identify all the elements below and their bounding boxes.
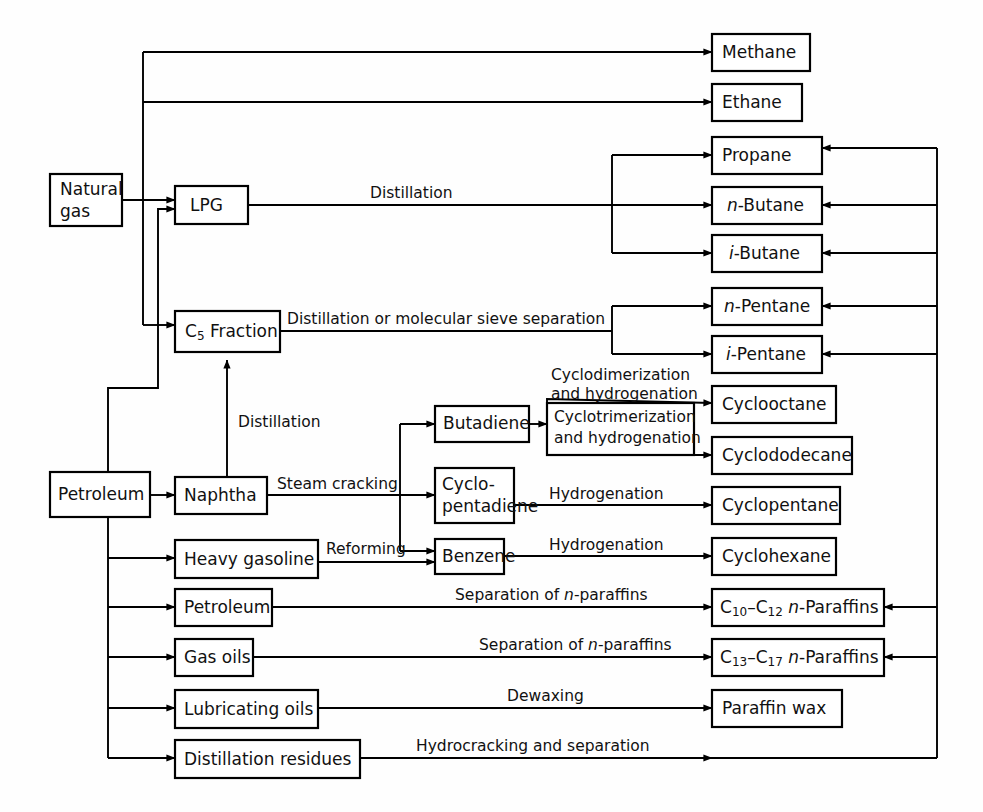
edge-label-distillation-or-molecular-sieve: Distillation or molecular sieve separati… [287, 310, 605, 328]
node-paraffin-wax[interactable]: Paraffin wax [712, 690, 842, 727]
node-butadiene-label: Butadiene [443, 413, 530, 433]
node-natural-gas-label-line2: gas [60, 201, 90, 221]
node-layer: Natural gas LPG C5 Fraction Petroleum [50, 34, 884, 778]
edge-label-cyclodimerization-line2: and hydrogenation [551, 385, 698, 403]
edge-label-separation-n-paraffins-2: Separation of n-paraffins [479, 636, 672, 654]
node-i-butane-label: i-Butane [729, 243, 800, 263]
node-cyclotrimerization-label-line1: Cyclotrimerization [554, 408, 696, 426]
node-n-butane-label: n-Butane [727, 195, 804, 215]
flowchart-canvas: Natural gas LPG C5 Fraction Petroleum [0, 0, 983, 812]
node-butadiene[interactable]: Butadiene [435, 406, 530, 442]
node-c10-c12-n-paraffins[interactable]: C10–C12 n-Paraffins [712, 589, 884, 626]
node-naphtha-label: Naphtha [184, 485, 257, 505]
edge-label-hydrocracking-and-separation: Hydrocracking and separation [416, 737, 650, 755]
edge-label-dewaxing: Dewaxing [507, 687, 584, 705]
node-cyclododecane-label: Cyclododecane [722, 445, 852, 465]
edge-label-steam-cracking: Steam cracking [277, 475, 398, 493]
node-propane-label: Propane [722, 145, 791, 165]
node-i-butane[interactable]: i-Butane [712, 235, 822, 272]
edge-label-hydrogenation-cyclohexane: Hydrogenation [549, 536, 664, 554]
node-cyclopentadiene-label-line2: pentadiene [442, 496, 538, 516]
edge-label-reforming: Reforming [326, 540, 406, 558]
edge-label-hydrogenation-cyclopentane: Hydrogenation [549, 485, 664, 503]
node-naphtha[interactable]: Naphtha [175, 477, 267, 514]
node-ethane-label: Ethane [722, 92, 782, 112]
flowchart-diagram: Natural gas LPG C5 Fraction Petroleum [0, 0, 983, 812]
node-cyclotrimerization-label-line2: and hydrogenation [554, 429, 701, 447]
node-cyclododecane[interactable]: Cyclododecane [712, 437, 852, 474]
edge-label-distillation-lpg: Distillation [370, 184, 453, 202]
node-cyclopentane-label: Cyclopentane [722, 495, 839, 515]
node-n-pentane-label: n-Pentane [724, 296, 810, 316]
link-petroleum-to-lpg [108, 209, 175, 472]
edge-label-cyclodimerization-line1: Cyclodimerization [551, 366, 690, 384]
node-distillation-residues-label: Distillation residues [184, 749, 352, 769]
node-methane-label: Methane [722, 42, 796, 62]
node-heavy-gasoline[interactable]: Heavy gasoline [175, 540, 318, 578]
node-gas-oils[interactable]: Gas oils [175, 639, 253, 676]
node-lpg[interactable]: LPG [175, 186, 248, 224]
node-natural-gas[interactable]: Natural gas [50, 174, 123, 226]
node-i-pentane[interactable]: i-Pentane [712, 336, 822, 373]
node-i-pentane-label: i-Pentane [726, 344, 806, 364]
node-petroleum-cut[interactable]: Petroleum [175, 589, 272, 626]
node-cyclooctane[interactable]: Cyclooctane [712, 386, 836, 423]
edge-label-distillation-naphtha-c5: Distillation [238, 413, 321, 431]
node-c5-fraction[interactable]: C5 Fraction [175, 311, 280, 352]
node-natural-gas-label-line1: Natural [60, 179, 123, 199]
node-methane[interactable]: Methane [712, 34, 810, 71]
node-benzene[interactable]: Benzene [435, 539, 516, 574]
node-cyclopentadiene[interactable]: Cyclo- pentadiene [435, 468, 538, 523]
node-cyclooctane-label: Cyclooctane [722, 394, 826, 414]
node-lpg-label: LPG [190, 195, 223, 215]
node-lubricating-oils[interactable]: Lubricating oils [175, 690, 318, 728]
node-cyclotrimerization-process[interactable]: Cyclotrimerization and hydrogenation [547, 403, 701, 455]
node-n-butane[interactable]: n-Butane [712, 187, 822, 224]
node-petroleum-cut-label: Petroleum [184, 597, 270, 617]
node-cyclohexane[interactable]: Cyclohexane [712, 538, 836, 575]
node-heavy-gasoline-label: Heavy gasoline [184, 549, 314, 569]
node-cyclohexane-label: Cyclohexane [722, 546, 831, 566]
node-n-pentane[interactable]: n-Pentane [712, 288, 822, 325]
node-petroleum-main-label: Petroleum [58, 484, 144, 504]
node-petroleum-main[interactable]: Petroleum [50, 472, 150, 517]
node-propane[interactable]: Propane [712, 137, 822, 174]
node-lubricating-oils-label: Lubricating oils [184, 699, 313, 719]
node-ethane[interactable]: Ethane [712, 84, 802, 121]
node-cyclopentane[interactable]: Cyclopentane [712, 487, 840, 524]
node-paraffin-wax-label: Paraffin wax [722, 698, 826, 718]
node-gas-oils-label: Gas oils [184, 647, 251, 667]
node-benzene-label: Benzene [442, 546, 516, 566]
edge-label-separation-n-paraffins-1: Separation of n-paraffins [455, 586, 648, 604]
node-cyclopentadiene-label-line1: Cyclo- [442, 474, 495, 494]
node-c13-c17-n-paraffins[interactable]: C13–C17 n-Paraffins [712, 639, 884, 676]
node-distillation-residues[interactable]: Distillation residues [175, 740, 360, 778]
